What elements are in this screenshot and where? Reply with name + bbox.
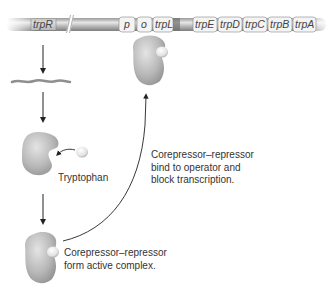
binding-arrow — [58, 149, 75, 154]
active-complex-group — [25, 232, 59, 283]
tryptophan-icon — [76, 147, 88, 158]
segment-label-o: o — [141, 18, 147, 30]
mrna-icon — [12, 80, 70, 82]
gene-label-trpR: trpR — [33, 18, 53, 30]
segment-label-p: p — [123, 18, 130, 30]
segment-trpB: trpB — [268, 17, 292, 32]
tryptophan-bound-icon — [156, 47, 168, 58]
segment-trpE: trpE — [193, 17, 217, 32]
caption-bind-operator: Corepressor–repressor bind to operator a… — [151, 149, 254, 187]
segment-label-trpB: trpB — [270, 18, 289, 30]
segment-label-trpL: trpL — [155, 18, 173, 30]
segment-label-trpC: trpC — [245, 18, 265, 30]
caption-bind-line-3: block transcription. — [151, 174, 254, 187]
curved-arrow-to-operator — [63, 96, 146, 241]
inactive-repressor-group — [22, 132, 88, 175]
caption-bind-line-2: bind to operator and — [151, 162, 254, 175]
repressor-protein-active — [25, 232, 56, 283]
caption-active-complex: Corepressor–repressor form active comple… — [64, 247, 167, 272]
caption-bind-line-1: Corepressor–repressor — [151, 149, 254, 162]
caption-complex-line-1: Corepressor–repressor — [64, 247, 167, 260]
repressor-protein-bound — [133, 36, 165, 86]
segment-promoter: p — [119, 17, 135, 32]
segment-trpL: trpL — [153, 17, 173, 32]
segment-operator: o — [137, 17, 152, 32]
segment-label-trpA: trpA — [295, 18, 314, 30]
segment-trpC: trpC — [243, 17, 267, 32]
repressor-protein-inactive — [22, 132, 59, 175]
segment-label-trpD: trpD — [220, 18, 240, 30]
tryptophan-corepressor-icon — [47, 247, 59, 258]
segment-label-trpE: trpE — [195, 18, 215, 30]
bound-repressor-complex — [133, 36, 168, 86]
tryptophan-label: Tryptophan — [58, 172, 108, 183]
segment-trpA: trpA — [293, 17, 316, 32]
caption-complex-line-2: form active complex. — [64, 260, 167, 273]
gene-trpR: trpR — [31, 18, 56, 30]
segment-trpD: trpD — [218, 17, 242, 32]
